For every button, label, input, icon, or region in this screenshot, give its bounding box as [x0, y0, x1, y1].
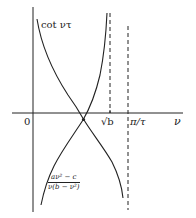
origin-label: 0 [24, 117, 30, 127]
cot-curve [37, 19, 123, 198]
pi-over-tau-label: π/τ [130, 117, 145, 127]
diagram-canvas [0, 0, 196, 218]
intersection-point [82, 118, 85, 121]
cot-label-text: cot ντ [41, 19, 71, 30]
rational-label-denominator: ν(b − ν²) [48, 183, 80, 191]
x-axis-label: ν [174, 116, 181, 127]
cot-label: cot ντ [41, 20, 71, 30]
sqrt-b-label: √b [101, 117, 114, 127]
rational-label: aν² − c ν(b − ν²) [48, 174, 80, 191]
rational-label-numerator: aν² − c [48, 174, 80, 183]
